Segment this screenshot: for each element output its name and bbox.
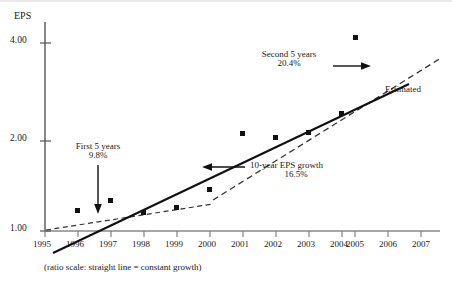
y-tick-label-2: 2.00 xyxy=(10,134,27,144)
annotation-second-5-years: Second 5 years 20.4% xyxy=(245,50,333,69)
data-point-1996 xyxy=(75,208,80,213)
y-tick-label-4: 4.00 xyxy=(10,36,27,46)
data-point-2001 xyxy=(240,131,245,136)
data-point-2002 xyxy=(273,135,278,140)
x-tick-label-1996: 1996 xyxy=(66,240,84,249)
y-tick-label-1: 1.00 xyxy=(10,224,27,234)
x-tick-label-1998: 1998 xyxy=(132,240,150,249)
x-tick-label-2002: 2002 xyxy=(264,240,282,249)
y-axis-title: EPS xyxy=(14,11,31,22)
data-point-2003 xyxy=(306,130,311,135)
annotation-first-5-years: First 5 years 9.8% xyxy=(57,142,139,161)
data-point-1998 xyxy=(141,210,146,215)
x-tick-label-2007: 2007 xyxy=(412,240,430,249)
arrow-second-5-years xyxy=(333,62,371,70)
data-point-1997 xyxy=(108,198,113,203)
x-tick-label-1999: 1999 xyxy=(165,240,183,249)
x-tick-label-2000: 2000 xyxy=(198,240,216,249)
annotation-10-year-growth-line1: 10-year EPS growth xyxy=(250,161,370,170)
x-tick-label-2003: 2003 xyxy=(297,240,315,249)
data-point-2005 xyxy=(353,35,358,40)
annotation-10-year-growth: 10-year EPS growth 16.5% xyxy=(250,161,370,180)
data-point-2000 xyxy=(207,187,212,192)
x-tick-marks xyxy=(45,231,421,237)
annotation-10-year-growth-line2: 16.5% xyxy=(250,170,342,179)
x-tick-label-2001: 2001 xyxy=(231,240,249,249)
arrow-first-5-years xyxy=(94,165,102,214)
annotation-estimated: Estimated xyxy=(385,85,421,94)
data-point-2004 xyxy=(339,111,344,116)
annotation-second-5-years-line2: 20.4% xyxy=(245,59,333,68)
x-tick-label-2006: 2006 xyxy=(379,240,397,249)
data-point-1999 xyxy=(174,205,179,210)
chart-footnote: (ratio scale: straight line = constant g… xyxy=(44,263,202,272)
x-tick-label-1995: 1995 xyxy=(33,240,51,249)
eps-growth-chart: EPS 4.00 2.00 1.00 1995 1996 1997 1998 1… xyxy=(0,0,452,286)
annotation-first-5-years-line2: 9.8% xyxy=(57,151,139,160)
x-tick-label-2005: 2005 xyxy=(346,240,364,249)
x-tick-label-1997: 1997 xyxy=(99,240,117,249)
